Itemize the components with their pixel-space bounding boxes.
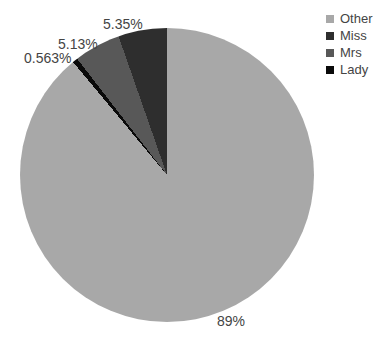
legend-label-mrs: Mrs [340,46,362,59]
legend: Other Miss Mrs Lady [326,12,373,76]
legend-swatch-lady [326,66,334,74]
pie-chart-figure: 89% 5.35% 5.13% 0.563% Other Miss Mrs La… [0,0,384,340]
pie [20,28,314,322]
legend-label-other: Other [340,12,373,25]
legend-swatch-other [326,15,334,23]
legend-label-lady: Lady [340,63,368,76]
legend-item-lady[interactable]: Lady [326,63,373,76]
pie-value-label-mrs: 5.13% [58,37,98,51]
legend-item-other[interactable]: Other [326,12,373,25]
legend-swatch-mrs [326,49,334,57]
legend-label-miss: Miss [340,29,367,42]
pie-value-label-miss: 5.35% [103,17,143,31]
legend-item-miss[interactable]: Miss [326,29,373,42]
pie-value-label-lady: 0.563% [24,51,71,65]
pie-value-label-other: 89% [217,314,245,328]
legend-swatch-miss [326,32,334,40]
legend-item-mrs[interactable]: Mrs [326,46,373,59]
